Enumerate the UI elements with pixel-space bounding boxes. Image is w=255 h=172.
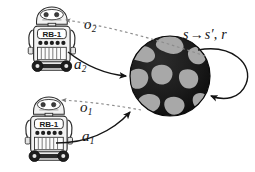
robot-arm-left <box>26 120 30 138</box>
diagram-svg: RB-1 <box>0 0 255 172</box>
transition-next-state: s′ <box>205 27 214 42</box>
robot-grille <box>37 47 66 59</box>
robot-arm-left <box>29 30 33 48</box>
transition-reward: r <box>221 27 227 42</box>
robot-hand-left <box>25 137 30 144</box>
observation-arrow-o1 <box>62 100 141 110</box>
robot-wheel-left-hub <box>32 154 36 158</box>
label-o2-index: 2 <box>92 24 97 34</box>
label-action-a1: a1 <box>82 129 94 144</box>
robot-eye-left <box>44 12 48 16</box>
robot-arm-right <box>68 120 72 138</box>
robot-arm-right <box>71 30 75 48</box>
label-a1-index: 1 <box>90 136 95 146</box>
robot-tread <box>42 64 61 68</box>
label-state-transition: s→s′, r <box>183 28 227 42</box>
label-observation-o1: o1 <box>80 100 92 115</box>
label-o2-symbol: o <box>84 16 92 32</box>
diagram-canvas: RB-1 <box>0 0 255 172</box>
robot-wheel-right-hub <box>61 154 65 158</box>
robot-wheel-left-hub <box>35 64 39 68</box>
label-a2-symbol: a <box>74 56 82 72</box>
robot-eye-right <box>54 12 58 16</box>
label-a2-index: 2 <box>82 64 87 74</box>
transition-arrow-glyph: → <box>189 27 205 42</box>
robot-name-label: RB-1 <box>42 30 61 39</box>
label-a1-symbol: a <box>82 128 90 144</box>
robot-hand-left <box>28 47 33 54</box>
robot-name-label: RB-1 <box>39 120 58 129</box>
label-observation-o2: o2 <box>84 17 96 32</box>
robot-agent-bottom: RB-1 <box>25 97 72 162</box>
robot-agent-top: RB-1 <box>28 7 75 72</box>
robot-eye-left <box>41 102 45 106</box>
transition-state: s <box>183 27 189 42</box>
robot-wheel-right-hub <box>64 64 68 68</box>
label-action-a2: a2 <box>74 57 86 72</box>
robot-tread <box>39 154 58 158</box>
robot-eye-right <box>51 102 55 106</box>
label-o1-symbol: o <box>80 99 88 115</box>
label-o1-index: 1 <box>88 107 93 117</box>
environment-globe <box>128 34 210 116</box>
robot-hand-right <box>71 47 76 54</box>
transition-separator: , <box>214 27 218 42</box>
